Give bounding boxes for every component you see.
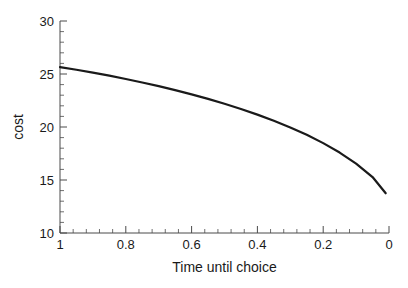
x-axis-tick-label: 0.6 bbox=[183, 238, 201, 251]
x-axis-ticks bbox=[60, 226, 389, 233]
x-axis-tick-label: 0 bbox=[385, 238, 392, 251]
y-axis-tick-label: 20 bbox=[40, 121, 54, 134]
x-axis-tick-label: 1 bbox=[56, 238, 63, 251]
x-axis-title: Time until choice bbox=[172, 260, 277, 274]
x-axis-tick-label: 0.4 bbox=[248, 238, 266, 251]
y-axis-title: cost bbox=[11, 114, 25, 140]
x-axis-tick-label: 0.2 bbox=[314, 238, 332, 251]
y-axis-tick-label: 30 bbox=[40, 15, 54, 28]
y-axis-tick-label: 10 bbox=[40, 227, 54, 240]
y-axis-tick-label: 25 bbox=[40, 68, 54, 81]
y-axis-tick-label: 15 bbox=[40, 174, 54, 187]
y-axis-ticks bbox=[60, 21, 67, 233]
cost-curve bbox=[60, 67, 386, 193]
chart-figure: 3025201510 10.80.60.40.20 cost Time unti… bbox=[0, 0, 408, 288]
x-axis-tick-label: 0.8 bbox=[117, 238, 135, 251]
